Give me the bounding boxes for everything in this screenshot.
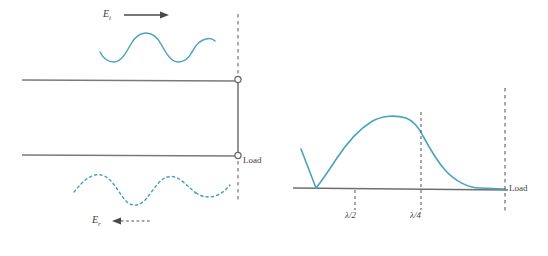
- incident-field-subscript: i: [109, 14, 111, 21]
- lower-terminal-node: [235, 152, 241, 158]
- transmission-line-figure: Ei Er Load Load λ/2 λ/4: [0, 0, 548, 256]
- incident-wave-curve-tail: [192, 39, 215, 52]
- incident-wave-curve: [100, 33, 192, 62]
- reflected-field-label: Er: [92, 215, 101, 228]
- upper-conductor: [22, 80, 236, 81]
- reflected-wave-curve-tail: [196, 185, 230, 197]
- standing-wave-curve: [301, 116, 505, 189]
- lower-conductor: [22, 155, 236, 156]
- lambda-quarter-label: λ/4: [410, 211, 421, 220]
- lambda-half-label: λ/2: [345, 211, 356, 220]
- figure-canvas: [0, 0, 548, 256]
- incident-field-label: Ei: [103, 9, 111, 22]
- incident-arrow-head: [160, 12, 169, 19]
- left-load-label: Load: [243, 156, 262, 165]
- right-load-label: Load: [509, 184, 528, 193]
- reflected-arrow-head: [112, 218, 121, 225]
- upper-terminal-node: [235, 76, 241, 82]
- reflected-wave-curve: [74, 175, 196, 206]
- reflected-field-subscript: r: [98, 220, 101, 227]
